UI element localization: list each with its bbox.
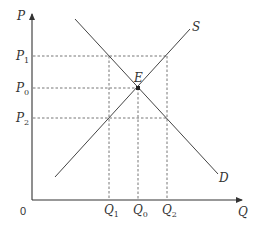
origin-label: 0 <box>20 205 26 217</box>
diagram-canvas: P Q 0 S D E P1 P0 P2 Q1 Q0 Q2 <box>0 0 259 228</box>
p1-label: P1 <box>15 49 29 65</box>
supply-demand-diagram: P Q 0 S D E P1 P0 P2 Q1 Q0 Q2 <box>0 0 259 228</box>
y-axis-label: P <box>16 9 26 23</box>
q0-label: Q0 <box>133 203 148 219</box>
q1-label: Q1 <box>104 203 119 219</box>
q2-label: Q2 <box>162 203 177 219</box>
demand-curve <box>75 19 218 174</box>
supply-label: S <box>192 20 200 34</box>
demand-label: D <box>218 171 229 185</box>
supply-curve <box>55 29 190 177</box>
p0-label: P0 <box>15 81 29 97</box>
x-axis-label: Q <box>238 205 248 219</box>
equilibrium-label: E <box>133 71 143 85</box>
equilibrium-point <box>136 86 140 90</box>
p2-label: P2 <box>15 111 29 127</box>
